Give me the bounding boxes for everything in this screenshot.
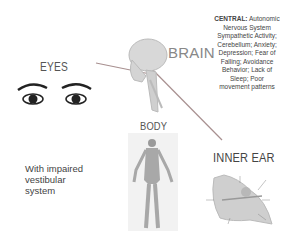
impaired-vestibular-note: With impaired vestibular system (25, 163, 95, 196)
central-factors-text: CENTRAL: Autonomic Nervous System Sympat… (214, 15, 280, 92)
human-body-illustration (128, 133, 178, 231)
inner-ear-illustration (206, 175, 272, 224)
central-description: Autonomic Nervous System Sympathetic Act… (217, 15, 280, 90)
brain-label: BRAIN (168, 44, 215, 61)
inner-ear-label: INNER EAR (213, 150, 275, 165)
eye-icon-right (62, 84, 91, 104)
eye-icon-left (18, 84, 47, 104)
central-heading: CENTRAL: (214, 15, 247, 22)
eyes-label: EYES (40, 60, 68, 74)
body-label: BODY (140, 120, 167, 132)
skull-brain-illustration (129, 39, 167, 112)
